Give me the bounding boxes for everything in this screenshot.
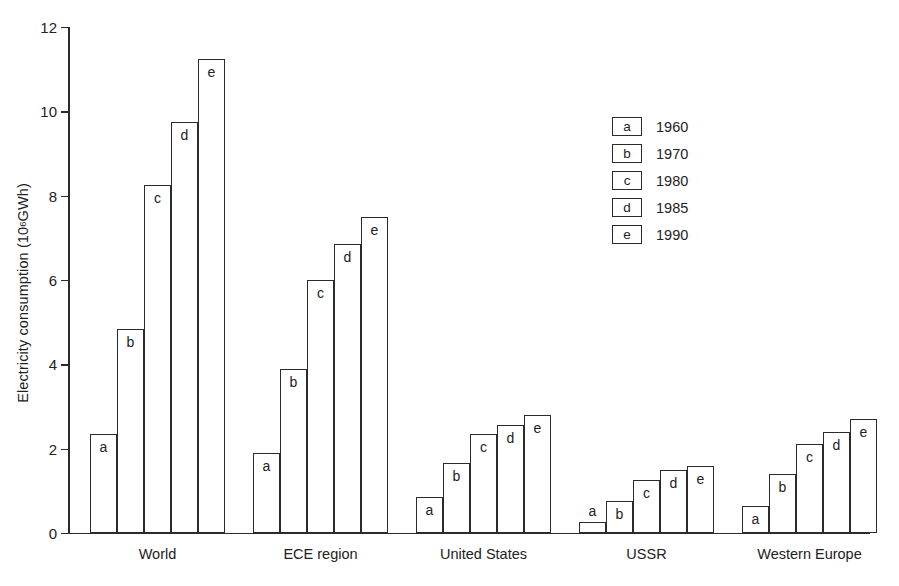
bar-series-letter: a <box>91 440 116 454</box>
bar: d <box>334 244 361 533</box>
bar: e <box>361 217 388 533</box>
y-axis-tick-mark <box>61 27 68 28</box>
bar: a <box>742 506 769 533</box>
bar: b <box>769 474 796 533</box>
y-axis-tick-label: 10 <box>40 103 57 120</box>
bar-series-letter: d <box>172 128 197 142</box>
legend-swatch: d <box>612 198 642 217</box>
x-axis-category-label: Western Europe <box>757 546 862 562</box>
legend-label: 1980 <box>656 173 688 189</box>
x-axis-line <box>68 533 870 534</box>
bar: d <box>660 470 687 533</box>
bar-series-letter: d <box>824 438 849 452</box>
legend-item: b1970 <box>612 141 688 166</box>
legend-item: a1960 <box>612 114 688 139</box>
y-axis-line <box>68 27 70 533</box>
bar-series-letter: a <box>254 459 279 473</box>
y-axis-tick-mark <box>61 196 68 197</box>
y-axis-tick-label: 2 <box>49 440 57 457</box>
x-axis-category-label: United States <box>440 546 527 562</box>
bar: a <box>416 497 443 533</box>
legend-item: e1990 <box>612 222 688 247</box>
y-axis-title-prefix: Electricity consumption (10 <box>15 227 31 403</box>
y-axis-tick-label: 8 <box>49 187 57 204</box>
x-axis-category-label: World <box>139 546 177 562</box>
bar: b <box>117 329 144 534</box>
legend: a1960b1970c1980d1985e1990 <box>612 114 688 249</box>
bar: c <box>307 280 334 533</box>
bar: e <box>524 415 551 533</box>
legend-swatch: a <box>612 117 642 136</box>
bar-series-letter: b <box>607 507 632 521</box>
y-axis-tick-mark <box>61 364 68 365</box>
y-axis-tick-mark <box>61 533 68 534</box>
y-axis-title: Electricity consumption (106 GWh) <box>8 0 38 586</box>
x-axis-category-label: USSR <box>626 546 666 562</box>
chart-figure: Electricity consumption (106 GWh) 024681… <box>0 0 899 586</box>
bar-series-letter: a <box>580 504 605 518</box>
y-axis-tick-label: 6 <box>49 272 57 289</box>
bar-series-letter: a <box>743 512 768 526</box>
bar-series-letter: c <box>634 486 659 500</box>
bar-series-letter: e <box>851 425 876 439</box>
legend-item: d1985 <box>612 195 688 220</box>
y-axis-tick-label: 12 <box>40 19 57 36</box>
legend-swatch: e <box>612 225 642 244</box>
bar: d <box>171 122 198 533</box>
bar: e <box>687 466 714 533</box>
bar-series-letter: c <box>145 191 170 205</box>
bar-series-letter: b <box>770 480 795 494</box>
bar: e <box>198 59 225 533</box>
bar: a <box>90 434 117 533</box>
y-axis-tick-mark <box>61 280 68 281</box>
bar: b <box>280 369 307 533</box>
legend-label: 1970 <box>656 146 688 162</box>
bar: a <box>579 522 606 533</box>
legend-label: 1990 <box>656 227 688 243</box>
bar: c <box>470 434 497 533</box>
bar: c <box>796 444 823 533</box>
bar: a <box>253 453 280 533</box>
y-axis-tick-label: 4 <box>49 356 57 373</box>
x-axis-category-label: ECE region <box>283 546 357 562</box>
y-axis-title-suffix: GWh) <box>15 183 31 221</box>
plot-area: 024681012 abcdeabcdeabcdeabcdeabcde Worl… <box>68 27 888 533</box>
bar-series-letter: b <box>281 375 306 389</box>
bar-series-letter: e <box>525 421 550 435</box>
legend-swatch: b <box>612 144 642 163</box>
bar-series-letter: a <box>417 503 442 517</box>
bar: d <box>497 425 524 533</box>
bar: b <box>443 463 470 533</box>
bar-series-letter: c <box>308 286 333 300</box>
bar-series-letter: e <box>199 65 224 79</box>
bar-series-letter: b <box>118 335 143 349</box>
y-axis-tick-label: 0 <box>49 525 57 542</box>
bar: b <box>606 501 633 533</box>
bar-series-letter: c <box>797 450 822 464</box>
legend-item: c1980 <box>612 168 688 193</box>
bar: c <box>633 480 660 533</box>
bar-series-letter: e <box>688 472 713 486</box>
legend-label: 1985 <box>656 200 688 216</box>
bar: e <box>850 419 877 533</box>
bar: c <box>144 185 171 533</box>
y-axis-tick-mark <box>61 449 68 450</box>
bar-series-letter: e <box>362 223 387 237</box>
legend-label: 1960 <box>656 119 688 135</box>
bar-series-letter: d <box>661 476 686 490</box>
bar-series-letter: c <box>471 440 496 454</box>
legend-swatch: c <box>612 171 642 190</box>
y-axis-tick-mark <box>61 111 68 112</box>
bar-series-letter: d <box>498 431 523 445</box>
bar-series-letter: d <box>335 250 360 264</box>
bar: d <box>823 432 850 533</box>
bar-series-letter: b <box>444 469 469 483</box>
